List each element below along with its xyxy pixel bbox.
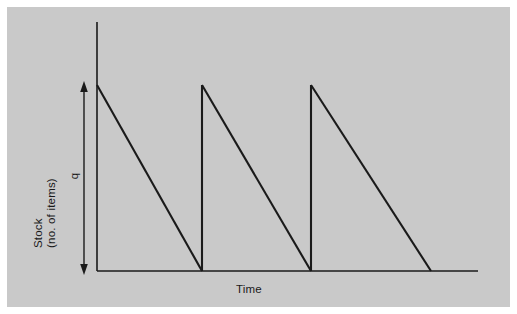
y-axis-label-primary: Stock: [32, 218, 44, 248]
stock-depletion-cycle-3: [311, 85, 431, 271]
stock-depletion-cycle-2: [202, 85, 311, 271]
stock-depletion-cycle-1: [97, 85, 202, 271]
q-label: q: [68, 173, 80, 179]
y-axis-label-secondary: (no. of items): [45, 178, 57, 248]
x-axis-label: Time: [236, 283, 262, 295]
q-measure-arrow-up-icon: [80, 81, 88, 92]
q-measure-arrow-down-icon: [80, 264, 88, 275]
figure-page: q Stock (no. of items) Time: [0, 0, 517, 314]
y-axis-label-group: Stock (no. of items): [31, 128, 67, 248]
chart-plot-area: [0, 0, 517, 314]
